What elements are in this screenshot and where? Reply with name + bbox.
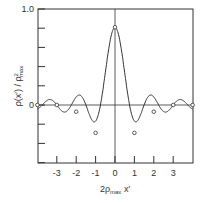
plot-frame xyxy=(38,9,193,163)
y-ticks xyxy=(38,9,45,163)
x-tick-label: 0 xyxy=(112,168,117,178)
x-tick-label: -3 xyxy=(53,168,61,178)
y-axis-label: ρ(x′) / ρ2max xyxy=(13,66,24,107)
chart: -3-2-10123 1.0 0 ρ(x′) / ρ2max 2ρmax x′ xyxy=(0,0,209,203)
y-tick-label-1: 1.0 xyxy=(21,4,34,14)
x-tick-label: 1 xyxy=(132,168,137,178)
x-tick-label: -1 xyxy=(92,168,100,178)
x-tick-label: 3 xyxy=(171,168,176,178)
y-tick-label-0: 0 xyxy=(29,100,34,110)
x-tick-label: -2 xyxy=(72,168,80,178)
x-axis-label: 2ρmax x′ xyxy=(100,184,130,195)
x-tick-label: 2 xyxy=(151,168,156,178)
x-ticks: -3-2-10123 xyxy=(53,156,176,178)
